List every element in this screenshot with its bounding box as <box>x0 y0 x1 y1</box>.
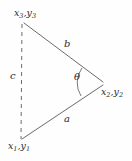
vertex-label-x1y1-ysub: 1 <box>26 145 30 153</box>
side-b-line <box>24 23 103 82</box>
side-label-b: b <box>64 39 70 49</box>
vertex-label-x3y3-ysub: 3 <box>32 12 36 20</box>
vertex-label-x2y2-ysub: 2 <box>119 91 123 99</box>
vertex-label-x2y2-xsub: 2 <box>106 91 110 99</box>
vertex-label-x1y1-xsub: 1 <box>13 145 17 153</box>
side-label-c: c <box>10 71 16 81</box>
geometry-figure: x3,y3 x1,y1 x2,y2 b a c θ <box>0 0 132 161</box>
vertex-label-x3y3-xsub: 3 <box>19 12 23 20</box>
angle-label-theta: θ <box>74 72 80 82</box>
triangle-diagram <box>0 0 132 161</box>
side-label-a: a <box>64 114 70 124</box>
vertex-label-x3y3: x3,y3 <box>14 8 36 18</box>
vertex-label-x1y1: x1,y1 <box>8 141 30 151</box>
side-a-line <box>22 85 103 139</box>
vertex-label-x2y2: x2,y2 <box>101 87 123 97</box>
side-c-line <box>21 24 22 139</box>
